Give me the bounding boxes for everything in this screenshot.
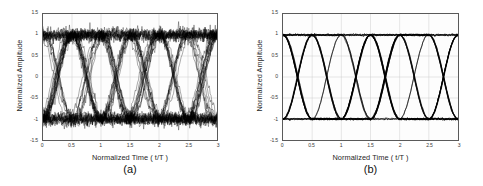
y-tick-label: 1 — [35, 32, 38, 37]
y-tick-label: 0.5 — [32, 53, 38, 58]
x-tick-label: 1.5 — [367, 143, 373, 148]
y-tick-label: -1.5 — [270, 138, 278, 143]
x-tick-label: 2 — [158, 143, 161, 148]
x-axis-ticks-b: 00.511.522.53 — [282, 143, 459, 152]
panel-caption-a: (a) — [42, 163, 218, 175]
gridlines — [283, 14, 458, 140]
x-tick-label: 0.5 — [308, 143, 314, 148]
plot-area-b — [282, 13, 459, 141]
y-tick-label: -1 — [34, 117, 38, 122]
y-tick-label: 1.5 — [272, 10, 278, 15]
y-tick-label: -1.5 — [30, 138, 38, 143]
x-tick-label: 2.5 — [426, 143, 432, 148]
x-tick-label: 1 — [340, 143, 343, 148]
x-axis-label-b: Normalized Time ( t/T ) — [282, 153, 459, 162]
y-tick-label: 0.5 — [272, 53, 278, 58]
y-tick-label: -0.5 — [30, 96, 38, 101]
x-tick-label: 2.5 — [185, 143, 191, 148]
eye-diagram-plot-a — [43, 14, 217, 140]
x-axis-ticks-a: 00.511.522.53 — [42, 143, 218, 152]
x-tick-label: 3 — [217, 143, 220, 148]
y-axis-label-a: Normalized Amplitude — [15, 30, 24, 122]
x-tick-label: 1 — [99, 143, 102, 148]
y-tick-label: 1 — [275, 32, 278, 37]
plot-area-a — [42, 13, 218, 141]
y-tick-label: -1 — [274, 117, 278, 122]
panel-caption-b: (b) — [282, 163, 459, 175]
y-tick-label: 0 — [275, 74, 278, 79]
y-tick-label: 0 — [35, 74, 38, 79]
x-tick-label: 0.5 — [68, 143, 74, 148]
x-axis-label-a: Normalized Time ( t/T ) — [42, 153, 218, 162]
x-tick-label: 0 — [281, 143, 284, 148]
panel-b: 1.510.50-0.5-1-1.5 00.511.522.53 Normali… — [241, 0, 482, 186]
eye-diagram-plot-b — [283, 14, 458, 140]
panel-a: 1.510.50-0.5-1-1.5 00.511.522.53 Normali… — [0, 0, 241, 186]
x-tick-label: 2 — [399, 143, 402, 148]
y-axis-label-b: Normalized Amplitude — [255, 30, 264, 122]
y-tick-label: 1.5 — [32, 10, 38, 15]
x-tick-label: 0 — [41, 143, 44, 148]
eye-diagram-figure: 1.510.50-0.5-1-1.5 00.511.522.53 Normali… — [0, 0, 483, 186]
y-tick-label: -0.5 — [270, 96, 278, 101]
x-tick-label: 3 — [458, 143, 461, 148]
x-tick-label: 1.5 — [127, 143, 133, 148]
